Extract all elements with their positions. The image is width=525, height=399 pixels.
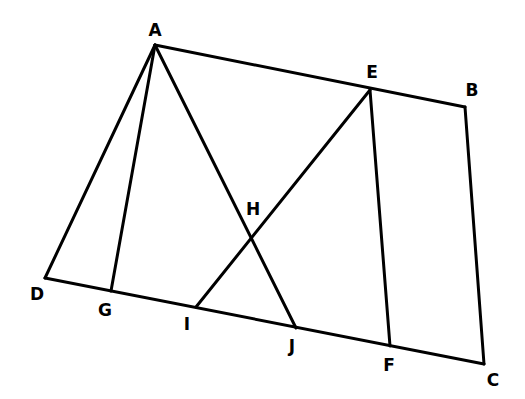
point-label-h: H	[246, 199, 260, 219]
point-label-e: E	[366, 62, 378, 82]
labels-layer: AEBCFJIGDH	[30, 20, 499, 390]
point-label-a: A	[148, 20, 162, 40]
segment-ab	[155, 45, 465, 107]
segment-ad	[45, 45, 155, 278]
point-label-g: G	[98, 300, 112, 320]
geometry-diagram: AEBCFJIGDH	[0, 0, 525, 399]
segment-ef	[370, 90, 390, 346]
point-label-d: D	[30, 284, 44, 304]
point-label-b: B	[466, 80, 479, 100]
point-label-c: C	[487, 370, 499, 390]
segment-ei	[196, 90, 370, 307]
point-label-i: I	[184, 314, 190, 334]
point-label-f: F	[383, 355, 395, 375]
segment-aj	[155, 45, 296, 328]
point-label-j: J	[288, 336, 295, 356]
segment-bc	[465, 107, 484, 364]
segment-ag	[111, 45, 155, 291]
